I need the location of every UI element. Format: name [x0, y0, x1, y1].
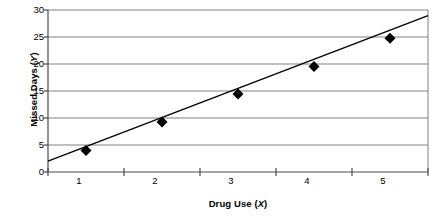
gridlines — [48, 10, 428, 145]
data-point-4 — [309, 61, 320, 72]
x-axis-title-text: Drug Use — [209, 198, 252, 209]
x-axis-title: Drug Use (X) — [48, 198, 428, 209]
scatter-chart: Missed Days (Y) 30 25 20 15 10 5 0 1 2 3… — [0, 0, 437, 218]
data-point-1 — [81, 145, 92, 156]
x-axis-title-symbol: X — [258, 198, 264, 209]
data-points — [81, 33, 396, 156]
data-point-5 — [385, 33, 396, 44]
plot-area — [0, 0, 437, 218]
